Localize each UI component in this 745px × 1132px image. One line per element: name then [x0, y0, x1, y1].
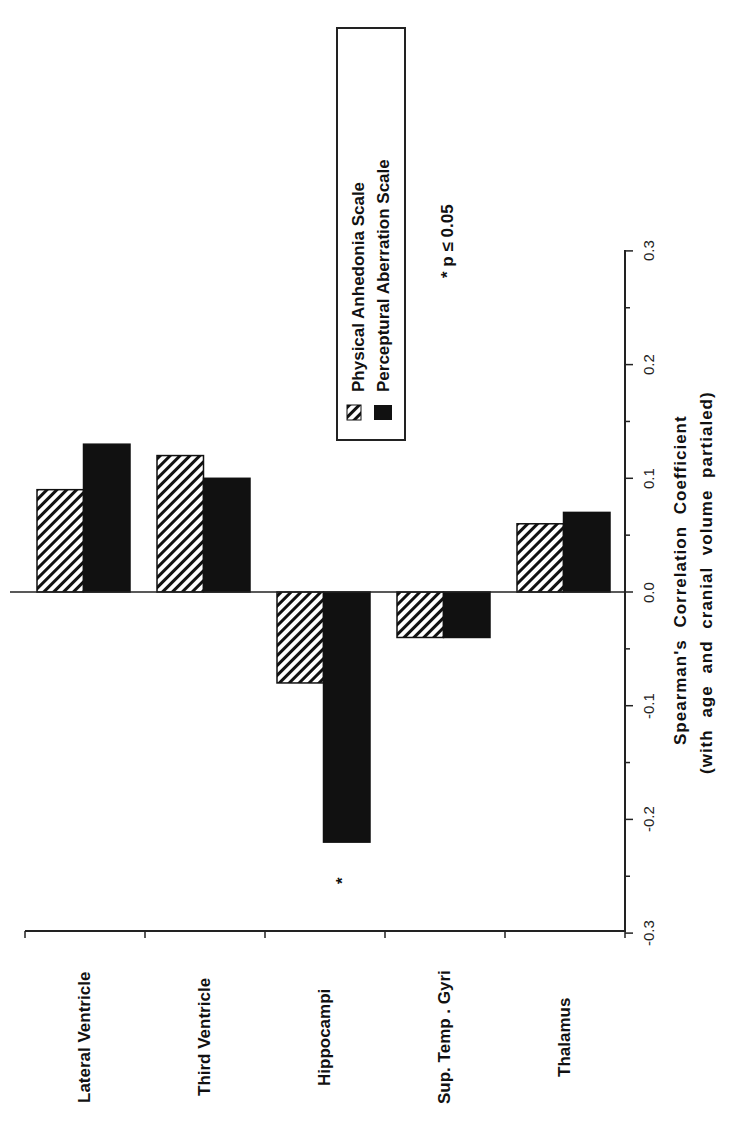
value-tick-label: -0.1	[640, 693, 657, 719]
bar-physical-anhedonia	[517, 524, 564, 592]
value-axis-ticks	[625, 251, 633, 933]
category-label: Third Ventricle	[195, 978, 215, 1096]
bar-perceptural-aberration	[324, 592, 371, 842]
value-tick-label: 0.2	[640, 354, 657, 375]
bar-perceptural-aberration	[444, 592, 491, 637]
chart-canvas	[0, 0, 745, 1132]
legend-label-perceptural-aberration: Perceptural Aberration Scale	[374, 159, 394, 392]
value-tick-label: -0.3	[640, 920, 657, 946]
legend-swatch-solid	[374, 405, 392, 420]
bar-perceptural-aberration	[204, 478, 251, 592]
bar-physical-anhedonia	[157, 456, 204, 592]
bar-physical-anhedonia	[277, 592, 324, 683]
category-label: Lateral Ventricle	[75, 971, 95, 1102]
value-tick-label: -0.2	[640, 807, 657, 833]
value-axis-title: Spearman's Correlation Coefficient	[671, 415, 691, 745]
value-tick-label: 0.3	[640, 241, 657, 262]
value-axis-subtitle: (with age and cranial volume partialed)	[697, 391, 717, 774]
bar-physical-anhedonia	[37, 490, 84, 592]
legend-box	[337, 28, 405, 440]
category-label: Hippocampi	[315, 988, 335, 1085]
legend-swatch-hatched	[347, 405, 361, 420]
bar-physical-anhedonia	[397, 592, 444, 637]
bar-group	[37, 444, 610, 842]
significance-marker: *	[333, 877, 353, 884]
value-tick-label: 0.0	[640, 582, 657, 603]
category-axis-ticks	[25, 931, 625, 938]
significance-note: * p ≤ 0.05	[438, 204, 458, 278]
category-label: Thalamus	[555, 997, 575, 1076]
value-tick-label: 0.1	[640, 468, 657, 489]
bar-perceptural-aberration	[84, 444, 131, 592]
bar-perceptural-aberration	[564, 512, 611, 592]
legend-label-physical-anhedonia: Physical Anhedonia Scale	[349, 182, 369, 392]
category-label: Sup. Temp . Gyri	[435, 970, 455, 1104]
